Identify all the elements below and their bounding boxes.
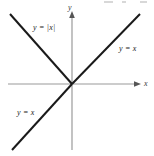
curve-label-line-upper-right: y = x xyxy=(119,45,137,53)
curve-label-line-lower-left: y = x xyxy=(17,109,35,117)
curve-label-absolute-value: y = |x| xyxy=(33,24,55,32)
x-axis-label: x xyxy=(144,80,148,88)
y-axis-arrowhead xyxy=(69,11,75,18)
y-axis-label: y xyxy=(68,4,72,12)
x-axis-arrowhead xyxy=(134,81,141,87)
graph-figure: y = |x| y = x y = x y x xyxy=(0,0,154,156)
graph-canvas xyxy=(0,0,154,156)
curve-line-yx-third-quadrant xyxy=(12,84,72,150)
